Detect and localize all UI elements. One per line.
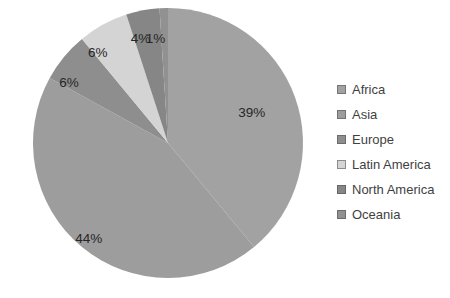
legend-marker-oceania	[337, 210, 346, 219]
legend-item-africa: Africa	[337, 77, 434, 102]
data-label-europe: 6%	[59, 75, 79, 90]
legend-item-north-america: North America	[337, 177, 434, 202]
legend-item-oceania: Oceania	[337, 202, 434, 227]
legend-item-latin-america: Latin America	[337, 152, 434, 177]
data-label-oceania: 1%	[146, 31, 166, 46]
data-label-latin-america: 6%	[88, 45, 108, 60]
legend-label-oceania: Oceania	[352, 208, 400, 222]
legend-label-latin-america: Latin America	[352, 158, 431, 172]
legend-marker-latin-america	[337, 160, 346, 169]
legend-label-asia: Asia	[352, 108, 377, 122]
pie-chart-figure: 39%44%6%6%4%1% AfricaAsiaEuropeLatin Ame…	[0, 0, 450, 298]
legend-label-north-america: North America	[352, 183, 434, 197]
legend-label-europe: Europe	[352, 133, 394, 147]
legend-marker-africa	[337, 85, 346, 94]
legend-item-europe: Europe	[337, 127, 434, 152]
data-label-africa: 39%	[238, 105, 265, 120]
legend-marker-north-america	[337, 185, 346, 194]
legend-marker-asia	[337, 110, 346, 119]
data-label-asia: 44%	[75, 231, 102, 246]
legend-marker-europe	[337, 135, 346, 144]
legend-item-asia: Asia	[337, 102, 434, 127]
legend-label-africa: Africa	[352, 83, 385, 97]
chart-legend: AfricaAsiaEuropeLatin AmericaNorth Ameri…	[337, 77, 434, 227]
